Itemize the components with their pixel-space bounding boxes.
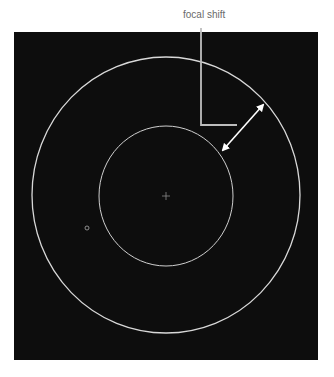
- callout-label: focal shift: [183, 9, 225, 20]
- diagram-canvas: [0, 0, 334, 377]
- focal-shift-diagram: focal shift: [0, 0, 334, 377]
